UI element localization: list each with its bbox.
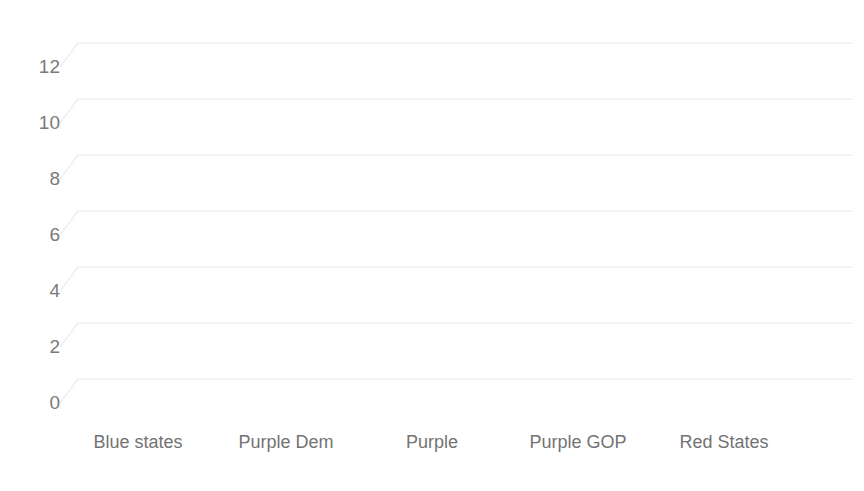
chart-container: 12 10 8 6 4 2 0 Blue states Purple Dem P… — [0, 0, 864, 491]
gridline-10-connector — [60, 99, 78, 123]
y-tick-label-12: 12 — [8, 57, 60, 77]
gridline-8-connector — [60, 155, 78, 179]
gridlines-group — [0, 0, 864, 491]
gridline-2-connector — [60, 323, 78, 347]
y-tick-label-2: 2 — [8, 337, 60, 357]
x-category-label-purple-dem: Purple Dem — [216, 432, 356, 453]
x-category-label-red-states: Red States — [654, 432, 794, 453]
y-tick-label-8: 8 — [8, 169, 60, 189]
x-category-label-purple: Purple — [362, 432, 502, 453]
gridline-6-connector — [60, 211, 78, 235]
y-tick-label-4: 4 — [8, 281, 60, 301]
gridline-0-connector — [60, 379, 78, 403]
x-category-label-purple-gop: Purple GOP — [506, 432, 650, 453]
gridline-4-connector — [60, 267, 78, 291]
y-tick-label-6: 6 — [8, 225, 60, 245]
plot-area: 12 10 8 6 4 2 0 Blue states Purple Dem P… — [0, 0, 864, 491]
gridline-12-connector — [60, 43, 78, 67]
x-category-label-blue-states: Blue states — [68, 432, 208, 453]
y-tick-label-10: 10 — [8, 113, 60, 133]
y-tick-label-0: 0 — [8, 393, 60, 413]
